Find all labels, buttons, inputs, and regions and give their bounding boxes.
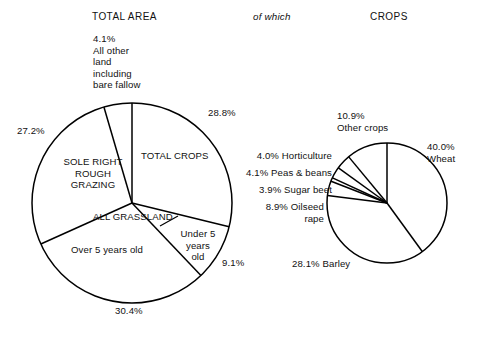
segment-label-over5: Over 5 years old bbox=[71, 244, 143, 256]
label-oilseed-rape: 8.9% Oilseed rape bbox=[172, 201, 324, 224]
label-horticulture: 4.0% Horticulture bbox=[172, 150, 332, 162]
left-spoke-68-3 bbox=[41, 203, 132, 244]
segment-label-sole-right: SOLE RIGHT ROUGH GRAZING bbox=[45, 156, 141, 191]
label-sugar-beet: 3.9% Sugar beet bbox=[172, 184, 332, 196]
label-wheat: 40.0% Wheat bbox=[427, 141, 455, 164]
label-other-land: 4.1% All other land including bare fallo… bbox=[93, 33, 141, 91]
label-over5-pct: 30.4% bbox=[115, 305, 143, 317]
label-barley: 28.1% Barley bbox=[292, 258, 350, 270]
header-crops: CROPS bbox=[370, 11, 408, 23]
header-total-area: TOTAL AREA bbox=[92, 11, 157, 23]
figure-canvas: TOTAL AREA of which CROPS 4.1% All other… bbox=[0, 0, 488, 337]
right-spoke-wheat-end bbox=[387, 203, 422, 252]
segment-label-under5: Under 5 years old bbox=[174, 228, 222, 263]
segment-label-all-grassland: ALL GRASSLAND bbox=[93, 211, 173, 223]
label-sole-right-pct: 27.2% bbox=[17, 125, 45, 137]
header-of-which: of which bbox=[253, 11, 291, 23]
label-other-crops: 10.9% Other crops bbox=[337, 110, 388, 133]
label-peas-beans: 4.1% Peas & beans bbox=[172, 167, 332, 179]
label-total-crops-pct: 28.8% bbox=[208, 107, 236, 119]
label-under5-pct: 9.1% bbox=[222, 257, 244, 269]
